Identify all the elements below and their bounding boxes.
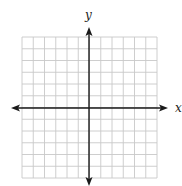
coordinate-plane: y x (0, 0, 182, 186)
x-axis-label: x (175, 101, 182, 115)
y-axis (86, 27, 93, 186)
y-axis-label: y (84, 8, 92, 22)
